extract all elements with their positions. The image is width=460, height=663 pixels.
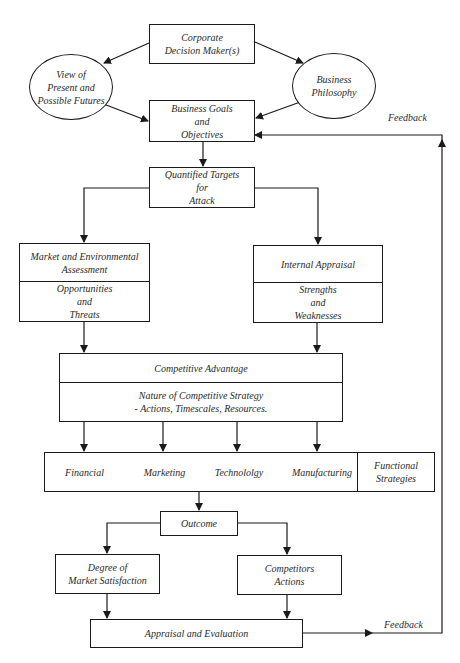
node-text: and [77, 295, 92, 308]
node-text: Strategies [376, 472, 416, 485]
node-market-assessment: Market and Environmental Assessment Oppo… [19, 243, 150, 322]
feedback-label-top: Feedback [388, 112, 427, 123]
node-text: Actions [275, 575, 305, 588]
node-competitors-actions: Competitors Actions [237, 555, 342, 595]
internal-appraisal-header: Internal Appraisal [254, 246, 382, 282]
node-text: Weaknesses [295, 309, 342, 322]
node-text: Competitive Advantage [154, 362, 247, 375]
node-market-satisfaction: Degree of Market Satisfaction [55, 554, 160, 594]
node-text: Philosophy [312, 86, 357, 99]
node-text: Nature of Competitive Strategy [139, 389, 263, 402]
node-quantified-targets: Quantified Targets for Attack [149, 167, 255, 208]
node-business-philosophy: Business Philosophy [292, 53, 376, 119]
node-corporate-decision-makers: Corporate Decision Maker(s) [149, 24, 255, 64]
function-marketing: Marketing [137, 453, 192, 491]
node-text: Internal Appraisal [281, 258, 355, 271]
opportunities-threats: Opportunities and Threats [20, 281, 149, 321]
node-appraisal-evaluation: Appraisal and Evaluation [90, 619, 303, 648]
node-text: Business [317, 73, 352, 86]
node-text: View of [56, 68, 86, 81]
feedback-loop-line [372, 140, 442, 633]
node-text: - Actions, Timescales, Resources. [135, 402, 268, 415]
node-text: Business Goals [171, 102, 232, 115]
node-business-goals: Business Goals and Objectives [149, 100, 255, 142]
market-assessment-header: Market and Environmental Assessment [20, 244, 149, 281]
node-text: Functional [374, 459, 418, 472]
node-text: Objectives [181, 128, 223, 141]
node-text: Attack [189, 194, 215, 207]
node-view-of-futures: View of Present and Possible Futures [29, 54, 113, 120]
function-financial: Financial [57, 453, 112, 491]
arrow-view-to-goals [101, 103, 148, 121]
node-internal-appraisal: Internal Appraisal Strengths and Weaknes… [253, 245, 383, 323]
node-text: Competitors [265, 562, 314, 575]
node-text: Outcome [181, 517, 217, 530]
node-text: Market Satisfaction [68, 574, 147, 587]
node-functional-strategies: Financial Marketing Technololgy Manufact… [44, 452, 435, 492]
arrow-feedback-to-goals [255, 135, 442, 141]
arrow-philosophy-to-goals [256, 101, 303, 118]
node-outcome: Outcome [160, 511, 238, 536]
node-text: Assessment [62, 263, 108, 276]
node-text: and [195, 115, 210, 128]
feedback-label-bottom: Feedback [384, 619, 423, 630]
node-text: Decision Maker(s) [165, 44, 240, 57]
function-manufacturing: Manufacturing [282, 453, 362, 491]
node-text: Corporate [181, 31, 223, 44]
node-competitive-advantage: Competitive Advantage Nature of Competit… [59, 353, 343, 422]
node-text: Appraisal and Evaluation [145, 627, 248, 640]
strengths-weaknesses: Strengths and Weaknesses [254, 282, 382, 322]
arrow-targets-to-internal [254, 188, 318, 244]
node-text: Market and Environmental [31, 250, 139, 263]
functional-strategies-label: Functional Strategies [357, 453, 434, 491]
arrow-outcome-to-competitors [237, 523, 287, 554]
arrow-corporate-to-view [104, 43, 149, 63]
competitive-advantage-header: Competitive Advantage [60, 354, 342, 382]
node-text: for [196, 181, 208, 194]
node-text: Present and [47, 81, 95, 94]
node-text: Opportunities [57, 282, 113, 295]
arrow-targets-to-market [84, 188, 149, 242]
function-technology: Technololgy [207, 453, 271, 491]
node-text: Possible Futures [37, 94, 104, 107]
arrow-outcome-to-satisfaction [107, 523, 160, 553]
arrow-corporate-to-philosophy [255, 42, 303, 63]
node-text: Threats [69, 308, 99, 321]
node-text: Degree of [88, 561, 127, 574]
node-text: and [311, 296, 326, 309]
node-text: Quantified Targets [165, 168, 240, 181]
competitive-strategy-nature: Nature of Competitive Strategy - Actions… [60, 382, 342, 421]
node-text: Strengths [299, 283, 336, 296]
